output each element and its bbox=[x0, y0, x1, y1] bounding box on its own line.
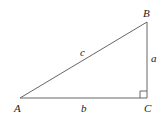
side-label-a: a bbox=[151, 52, 157, 64]
side-label-c: c bbox=[80, 46, 85, 58]
vertex-label-b: B bbox=[143, 7, 150, 19]
side-label-b: b bbox=[81, 102, 87, 114]
vertex-label-c: C bbox=[144, 102, 152, 114]
right-triangle-diagram: B A C c a b bbox=[0, 0, 162, 117]
right-angle-marker bbox=[140, 91, 147, 98]
triangle-outline bbox=[20, 22, 147, 98]
vertex-label-a: A bbox=[13, 102, 21, 114]
